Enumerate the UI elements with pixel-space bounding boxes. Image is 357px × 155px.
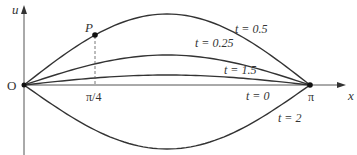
point-p bbox=[92, 32, 98, 38]
pi-dot bbox=[307, 82, 313, 88]
label-t-2: t = 2 bbox=[278, 111, 301, 125]
label-t-1.5: t = 1.5 bbox=[224, 63, 256, 77]
x-axis-arrow-icon bbox=[337, 82, 346, 88]
label-t-0: t = 0 bbox=[246, 89, 269, 103]
label-t-0.5: t = 0.5 bbox=[235, 22, 267, 36]
u-axis-arrow-icon bbox=[21, 5, 27, 14]
wave-diagram: u x O π/4 π P t = 0.5 t = 0.25 t = 1.5 t… bbox=[0, 0, 357, 155]
tick-pi: π bbox=[308, 90, 314, 104]
tick-pi-over-4: π/4 bbox=[86, 90, 101, 104]
origin-dot bbox=[22, 83, 27, 88]
origin-label: O bbox=[7, 78, 16, 93]
curve-t-1.5 bbox=[24, 75, 310, 85]
x-axis-label: x bbox=[347, 88, 354, 103]
u-axis-label: u bbox=[12, 2, 19, 17]
point-p-label: P bbox=[84, 20, 93, 35]
label-t-0.25: t = 0.25 bbox=[195, 36, 233, 50]
